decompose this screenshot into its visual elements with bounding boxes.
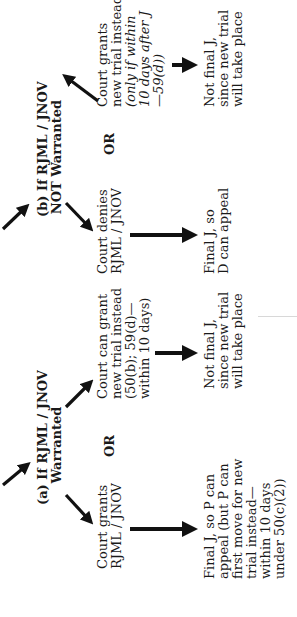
text-line: new trial instead bbox=[110, 288, 124, 399]
branch-a-left-result: Final J, so P can appeal (but P can firs… bbox=[203, 459, 287, 579]
branch-b-left-result: Final J, so D can appeal bbox=[203, 188, 231, 274]
arrow-into-a bbox=[3, 465, 27, 485]
rjml-jnov-flow-diagram: (a) If RJML / JNOV Warranted OR Court gr… bbox=[0, 0, 297, 617]
text-line: Final J, so bbox=[203, 188, 217, 274]
text-line: within 10 days) bbox=[138, 288, 152, 399]
arrow-a-left bbox=[66, 495, 90, 521]
arrow-b-right bbox=[66, 77, 98, 101]
branch-b-right-result: Not final J, since new trial will take p… bbox=[203, 10, 245, 107]
arrow-a-right bbox=[66, 383, 90, 407]
text-line: (only if within bbox=[124, 0, 138, 107]
text-line: under 50(c)(2)) bbox=[273, 459, 287, 579]
branch-a-heading-line1: (a) If RJML / JNOV bbox=[36, 385, 50, 505]
text-line: new trial instead bbox=[110, 0, 124, 107]
text-line: Final J, so P can bbox=[203, 459, 217, 579]
text-line: Not final J, bbox=[203, 10, 217, 107]
text-line: Court grants bbox=[96, 483, 110, 569]
branch-a-right-option: Court can grant new trial instead (50(b)… bbox=[96, 288, 152, 399]
branch-b-right-option: Court grants new trial instead (only if … bbox=[96, 0, 166, 107]
text-line: Court can grant bbox=[96, 288, 110, 399]
text-line: appeal (but P can bbox=[217, 459, 231, 579]
branch-b-heading-line1: (b) If RJML / JNOV bbox=[36, 97, 50, 217]
text-line: RJML / JNOV bbox=[110, 483, 124, 569]
branch-b-left-option: Court denies RJML / JNOV bbox=[96, 188, 124, 274]
arrow-into-b bbox=[3, 207, 26, 229]
text-line: within 10 days bbox=[259, 459, 273, 579]
text-line: Court denies bbox=[96, 188, 110, 274]
text-line: since new trial bbox=[217, 10, 231, 107]
text-line: Court grants bbox=[96, 0, 110, 107]
text-line: will take place bbox=[231, 292, 245, 389]
text-line: (50(b); 59(d)— bbox=[124, 288, 138, 399]
arrow-b-left bbox=[66, 203, 90, 228]
text-line: trial instead— bbox=[245, 459, 259, 579]
branch-a-left-option: Court grants RJML / JNOV bbox=[96, 483, 124, 569]
branch-b-heading: (b) If RJML / JNOV NOT Warranted bbox=[36, 97, 64, 217]
text-line: Not final J, bbox=[203, 292, 217, 389]
text-line: since new trial bbox=[217, 292, 231, 389]
branch-b-heading-line2: NOT Warranted bbox=[50, 97, 64, 217]
branch-a-heading-line2: Warranted bbox=[50, 385, 64, 505]
branch-a-heading: (a) If RJML / JNOV Warranted bbox=[36, 385, 64, 505]
text-line: —59(d)) bbox=[152, 0, 166, 107]
scan-artifact-line bbox=[258, 316, 297, 317]
branch-a-or-label: OR bbox=[103, 435, 117, 457]
branch-b-or-label: OR bbox=[103, 133, 117, 155]
text-line: will take place bbox=[231, 10, 245, 107]
branch-a-right-result: Not final J, since new trial will take p… bbox=[203, 292, 245, 389]
text-line: first move for new bbox=[231, 459, 245, 579]
text-line: 10 days after J bbox=[138, 0, 152, 107]
text-line: D can appeal bbox=[217, 188, 231, 274]
text-line: RJML / JNOV bbox=[110, 188, 124, 274]
